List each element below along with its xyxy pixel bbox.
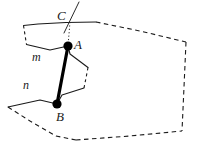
label-point-b: B: [56, 110, 64, 123]
plane-m-top-edge-dashed: [96, 22, 186, 42]
label-plane-n: n: [23, 79, 29, 91]
plane-n-top-edge-solid: [8, 88, 84, 107]
plane-n-bottom-edge-dashed: [76, 131, 182, 140]
point-a-marker: [63, 41, 72, 50]
plane-m-right-edge-dashed: [84, 68, 88, 89]
planes-right-side-dashed: [182, 42, 186, 131]
label-point-a: A: [74, 38, 82, 51]
geometry-figure: C A B m n: [0, 0, 201, 146]
plane-m-left-edge-dashed: [24, 26, 27, 45]
plane-n-left-edge-dashed: [8, 107, 76, 140]
geometry-canvas: [0, 0, 201, 146]
label-point-c: C: [57, 9, 66, 22]
line-through-point-c: [64, 2, 79, 33]
point-b-marker: [52, 99, 61, 108]
label-plane-m: m: [32, 51, 41, 63]
